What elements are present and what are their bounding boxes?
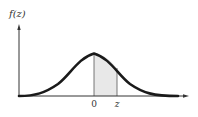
y-axis-label: f(z) — [8, 8, 26, 19]
x-tick-z: z — [114, 99, 120, 109]
x-axis-arrow-icon — [183, 94, 189, 97]
normal-curve-diagram: f(z) 0 z — [0, 0, 198, 117]
x-tick-zero: 0 — [91, 99, 97, 109]
y-axis-arrow-icon — [17, 24, 20, 30]
